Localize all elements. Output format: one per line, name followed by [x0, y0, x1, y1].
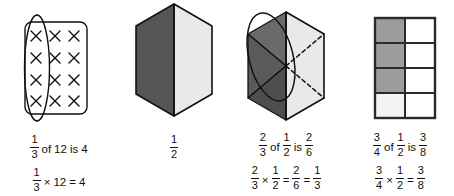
equals-operator: =	[283, 175, 290, 187]
fraction-one-third: 1 3	[313, 165, 321, 191]
panel-hexagon-sixths: 2 3 of 1 2 is 2 6 2 3 ×	[226, 0, 346, 196]
fraction-one-half: 1 2	[396, 165, 404, 191]
x-array-svg	[0, 0, 118, 130]
caption-word-is: is	[70, 144, 78, 156]
multiplication-operator: ×	[262, 175, 269, 187]
hexagon-sixths-svg	[226, 0, 346, 130]
fraction-denominator: 3	[33, 182, 41, 194]
caption-line-2: 1 3 ×12=4	[0, 167, 118, 193]
fraction-numerator: 1	[283, 132, 291, 144]
fraction-denominator: 3	[313, 180, 321, 192]
grid-cell-empty	[405, 43, 435, 68]
fraction-numerator: 1	[397, 132, 405, 144]
grid-cell-shaded	[375, 68, 405, 93]
fraction-numerator: 3	[375, 165, 383, 177]
fraction-one-half: 1 2	[397, 132, 405, 158]
grid-cell-pale	[375, 93, 405, 118]
caption-line-1: 3 4 of 1 2 is 3 8	[346, 132, 454, 158]
fraction-three-eighths: 3 8	[419, 132, 427, 158]
fraction-denominator: 2	[170, 149, 178, 161]
fraction-numerator: 1	[272, 165, 280, 177]
fraction-denominator: 4	[375, 180, 383, 192]
fraction-three-fourths: 3 4	[375, 165, 383, 191]
fraction-numerator: 1	[170, 134, 178, 146]
grid-cell-empty	[405, 18, 435, 43]
fraction-one-third: 1 3	[30, 134, 38, 160]
caption-line-1: 1 3 of12is4	[0, 134, 118, 160]
fraction-denominator: 6	[292, 180, 300, 192]
hexagon-right-half-unshaded	[174, 4, 212, 116]
caption-rectangle-eighths: 3 4 of 1 2 is 3 8 3 4 ×	[346, 132, 454, 191]
grid-cell-shaded	[375, 43, 405, 68]
figure-x-array	[0, 0, 118, 130]
caption-value-four: 4	[81, 144, 87, 156]
figure-grid	[346, 0, 454, 130]
worksheet-board: 1 3 of12is4 1 3 ×12=4	[0, 0, 454, 196]
caption-array-of-twelve: 1 3 of12is4 1 3 ×12=4	[0, 134, 118, 193]
caption-value-twelve: 12	[54, 144, 67, 156]
fraction-numerator: 2	[305, 132, 313, 144]
fraction-denominator: 2	[397, 147, 405, 159]
fraction-numerator: 3	[419, 132, 427, 144]
fraction-denominator: 2	[272, 180, 280, 192]
fraction-denominator: 3	[251, 180, 259, 192]
fraction-denominator: 4	[373, 147, 381, 159]
grid-cell-empty	[405, 68, 435, 93]
fraction-numerator: 2	[259, 132, 267, 144]
fraction-three-eighths: 3 8	[417, 165, 425, 191]
fraction-numerator: 2	[251, 165, 259, 177]
grid-svg	[346, 0, 454, 130]
caption-word-is: is	[294, 142, 302, 154]
fraction-one-third: 1 3	[33, 167, 41, 193]
hexagon-left-half-shaded	[136, 4, 174, 116]
caption-line-2: 3 4 × 1 2 = 3 8	[346, 165, 454, 191]
fraction-denominator: 3	[259, 147, 267, 159]
fraction-denominator: 8	[417, 180, 425, 192]
caption-value-twelve: 12	[53, 177, 66, 189]
figure-hexagon-sixths	[226, 0, 346, 130]
caption-hexagon-halves: 1 2	[118, 134, 230, 160]
fraction-numerator: 1	[33, 167, 41, 179]
caption-word-of: of	[270, 142, 280, 154]
equals-operator: =	[407, 175, 414, 187]
panel-rectangle-eighths: 3 4 of 1 2 is 3 8 3 4 ×	[346, 0, 454, 196]
fraction-two-thirds: 2 3	[259, 132, 267, 158]
fraction-denominator: 6	[305, 147, 313, 159]
caption-word-of: of	[384, 142, 394, 154]
fraction-three-fourths: 3 4	[373, 132, 381, 158]
caption-value-four: 4	[79, 177, 85, 189]
equals-operator: =	[69, 177, 76, 189]
panel-hexagon-halves: 1 2	[118, 0, 230, 196]
caption-word-of: of	[42, 144, 52, 156]
multiplication-operator: ×	[44, 177, 51, 189]
equals-operator: =	[303, 175, 310, 187]
panel-array-of-twelve: 1 3 of12is4 1 3 ×12=4	[0, 0, 118, 196]
figure-hexagon-split	[118, 0, 230, 130]
hexagon-right-half-unshaded	[286, 12, 324, 120]
fraction-numerator: 3	[373, 132, 381, 144]
fraction-denominator: 2	[283, 147, 291, 159]
fraction-two-thirds: 2 3	[251, 165, 259, 191]
fraction-one-half: 1 2	[283, 132, 291, 158]
caption-line-2: 2 3 × 1 2 = 2 6 = 1 3	[226, 165, 346, 191]
fraction-denominator: 2	[396, 180, 404, 192]
fraction-one-half: 1 2	[170, 134, 178, 160]
caption-line-1: 1 2	[118, 134, 230, 160]
grid-cell-empty	[405, 93, 435, 118]
fraction-numerator: 1	[396, 165, 404, 177]
hexagon-split-svg	[118, 0, 230, 130]
grid-cell-shaded	[375, 18, 405, 43]
caption-hexagon-sixths: 2 3 of 1 2 is 2 6 2 3 ×	[226, 132, 346, 191]
fraction-denominator: 8	[419, 147, 427, 159]
caption-line-1: 2 3 of 1 2 is 2 6	[226, 132, 346, 158]
fraction-numerator: 2	[292, 165, 300, 177]
fraction-numerator: 1	[30, 134, 38, 146]
fraction-denominator: 3	[30, 149, 38, 161]
fraction-one-half: 1 2	[272, 165, 280, 191]
caption-word-is: is	[408, 142, 416, 154]
fraction-numerator: 1	[313, 165, 321, 177]
fraction-two-sixths: 2 6	[292, 165, 300, 191]
multiplication-operator: ×	[386, 175, 393, 187]
fraction-numerator: 3	[417, 165, 425, 177]
fraction-two-sixths: 2 6	[305, 132, 313, 158]
